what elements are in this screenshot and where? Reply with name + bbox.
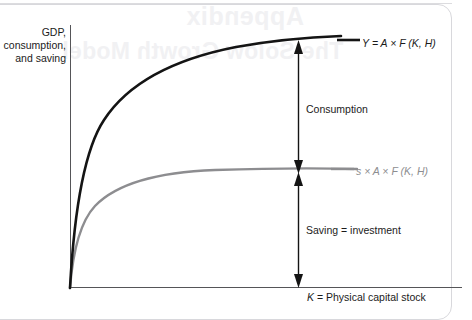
curve-label-output-variable: Y xyxy=(362,37,369,49)
annotation-label-saving-investment: Saving = investment xyxy=(306,224,401,237)
curve-label-saving-variable: s xyxy=(356,165,361,177)
curve-label-saving: s × A × F (K, H) xyxy=(356,165,428,178)
x-axis-label: K = Physical capital stock xyxy=(307,291,426,304)
curve-label-saving-expression: × A × F (K, H) xyxy=(364,165,428,177)
curve-label-output-expression: = A × F (K, H) xyxy=(372,37,436,49)
y-axis-label-line-2: consumption, xyxy=(0,39,66,52)
x-axis-label-variable: K xyxy=(307,291,314,303)
x-axis-label-text: = Physical capital stock xyxy=(317,291,426,303)
arrow-saving-investment xyxy=(294,172,303,288)
arrow-consumption xyxy=(294,40,303,174)
annotation-label-consumption: Consumption xyxy=(306,103,368,116)
y-axis-label-line-1: GDP, xyxy=(0,26,66,39)
y-axis-label: GDP, consumption, and saving xyxy=(0,26,66,65)
y-axis-label-line-3: and saving xyxy=(0,52,66,65)
curve-label-output: Y = A × F (K, H) xyxy=(362,37,436,50)
